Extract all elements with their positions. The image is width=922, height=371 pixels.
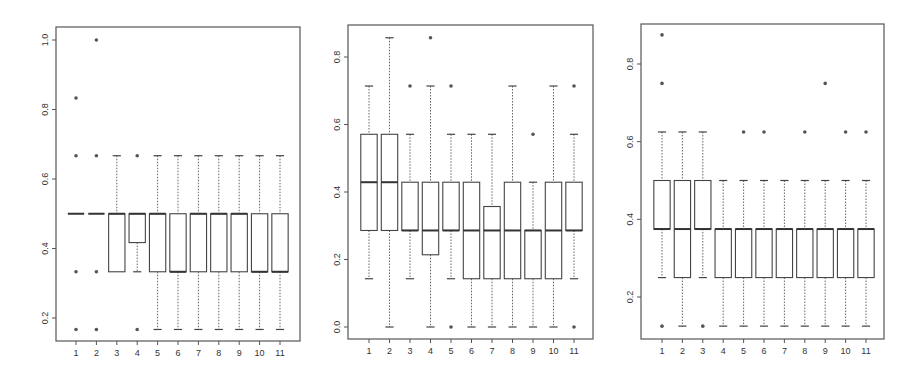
box-11 [566, 84, 582, 329]
box-1 [68, 96, 84, 331]
box-4 [422, 36, 438, 327]
y-tick-label: 0.8 [40, 103, 50, 116]
outlier-point [95, 154, 99, 158]
box-5 [443, 84, 459, 329]
x-tick-label: 4 [721, 346, 726, 356]
y-tick-label: 0.4 [40, 242, 50, 255]
box-11 [272, 156, 288, 330]
x-tick-label: 9 [237, 348, 242, 358]
x-tick-label: 10 [548, 346, 558, 356]
y-tick-label: 0.8 [332, 51, 342, 64]
x-tick-label: 6 [761, 346, 766, 356]
outlier-point [135, 154, 139, 158]
y-tick-label: 0.6 [40, 173, 50, 186]
x-tick-label: 10 [841, 346, 851, 356]
x-tick-label: 9 [530, 346, 535, 356]
box-8 [504, 86, 520, 327]
outlier-point [572, 84, 576, 88]
outlier-point [74, 154, 78, 158]
outlier-point [762, 130, 766, 134]
outlier-point [701, 324, 705, 328]
box-4 [129, 154, 145, 331]
outlier-point [95, 328, 99, 332]
x-tick-label: 4 [135, 348, 140, 358]
box-11 [858, 130, 874, 326]
box-7 [484, 134, 500, 327]
box-10 [545, 86, 561, 327]
panel-3: 0.20.40.60.81234567891011 [625, 24, 884, 356]
box-8 [211, 156, 227, 330]
x-tick-label: 4 [428, 346, 433, 356]
y-tick-label: 0.6 [625, 135, 635, 148]
x-tick-label: 1 [73, 348, 78, 358]
x-tick-label: 1 [366, 346, 371, 356]
box-2 [88, 38, 104, 331]
panel-2: 0.00.20.40.60.81234567891011 [332, 25, 593, 356]
y-tick-label: 0.6 [332, 118, 342, 131]
box-1 [361, 86, 377, 279]
box-2 [674, 132, 690, 326]
outlier-point [449, 84, 453, 88]
box-4 [715, 181, 731, 327]
box-9 [525, 132, 541, 327]
x-tick-label: 2 [94, 348, 99, 358]
box-7 [776, 181, 792, 327]
x-tick-label: 7 [782, 346, 787, 356]
box-5 [735, 130, 751, 326]
box-1 [654, 33, 670, 328]
y-tick-label: 0.2 [332, 253, 342, 266]
x-tick-label: 6 [175, 348, 180, 358]
box-6 [463, 134, 479, 327]
outlier-point [823, 82, 827, 86]
x-tick-label: 11 [275, 348, 284, 358]
outlier-point [408, 84, 412, 88]
outlier-point [95, 270, 99, 274]
box-3 [109, 156, 125, 272]
x-tick-label: 3 [407, 346, 412, 356]
x-tick-label: 5 [448, 346, 453, 356]
x-tick-label: 7 [489, 346, 494, 356]
panel-1: 0.20.40.60.81.01234567891011 [40, 27, 300, 358]
box-6 [756, 130, 772, 326]
x-tick-label: 8 [216, 348, 221, 358]
outlier-point [660, 82, 664, 86]
y-tick-label: 1.0 [40, 34, 50, 47]
box-10 [251, 156, 267, 330]
outlier-point [449, 325, 453, 329]
outlier-point [844, 130, 848, 134]
outlier-point [660, 33, 664, 37]
outlier-point [74, 328, 78, 332]
outlier-point [660, 324, 664, 328]
outlier-point [135, 328, 139, 332]
outlier-point [742, 130, 746, 134]
box-3 [695, 132, 711, 328]
y-tick-label: 0.2 [625, 291, 635, 304]
outlier-point [531, 132, 535, 136]
x-tick-label: 11 [569, 346, 578, 356]
box-9 [231, 156, 247, 330]
box-3 [402, 84, 418, 279]
outlier-point [572, 325, 576, 329]
y-tick-label: 0.0 [332, 321, 342, 334]
y-tick-label: 0.2 [40, 312, 50, 325]
y-tick-label: 0.8 [625, 58, 635, 71]
box-8 [797, 130, 813, 326]
x-tick-label: 3 [700, 346, 705, 356]
x-tick-label: 10 [255, 348, 265, 358]
box-2 [381, 38, 397, 327]
box-6 [170, 156, 186, 330]
y-tick-label: 0.4 [332, 186, 342, 199]
outlier-point [803, 130, 807, 134]
x-tick-label: 9 [823, 346, 828, 356]
box-9 [817, 82, 833, 327]
x-tick-label: 7 [196, 348, 201, 358]
x-tick-label: 6 [469, 346, 474, 356]
y-tick-label: 0.4 [625, 213, 635, 226]
x-tick-label: 8 [802, 346, 807, 356]
x-tick-label: 5 [741, 346, 746, 356]
x-tick-label: 1 [659, 346, 664, 356]
box-7 [190, 156, 206, 330]
x-tick-label: 2 [387, 346, 392, 356]
outlier-point [74, 96, 78, 100]
box-10 [837, 130, 853, 326]
